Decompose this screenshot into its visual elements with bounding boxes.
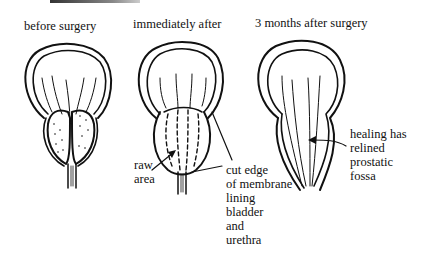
annotation-raw-area: raw area — [134, 158, 155, 186]
cut-edge-line: lining — [226, 191, 292, 205]
raw-area-line: raw — [134, 158, 155, 172]
prostate-dots — [53, 115, 89, 153]
cut-edge-line: of membrane — [226, 177, 292, 191]
cut-edge-line: bladder — [226, 205, 292, 219]
healing-line: prostatic — [350, 155, 407, 169]
cut-edge-line: cut edge — [226, 163, 292, 177]
healing-line: fossa — [350, 169, 407, 183]
annotation-healing: healing has relined prostatic fossa — [350, 127, 407, 183]
healing-arrowhead — [308, 136, 316, 144]
cut-edge-line: urethra — [226, 233, 292, 247]
annotation-cut-edge: cut edge of membrane lining bladder and … — [226, 163, 292, 247]
healing-arrow — [312, 140, 346, 146]
bladder-before — [25, 44, 111, 188]
healing-line: healing has — [350, 127, 407, 141]
healing-line: relined — [350, 141, 407, 155]
raw-area-line: area — [134, 172, 155, 186]
cut-edge-line: and — [226, 219, 292, 233]
